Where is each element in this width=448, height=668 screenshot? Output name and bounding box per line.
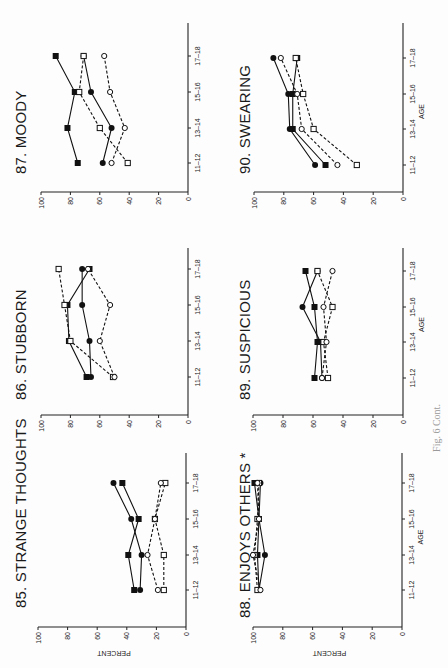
y-tick-label: 100: [35, 632, 42, 644]
open-circle-marker: [97, 338, 102, 343]
filled-circle-marker: [87, 338, 93, 344]
panel-title: 86. STUBBORN: [12, 289, 29, 400]
x-tick-label: 15–16: [409, 297, 416, 317]
open-circle-marker: [324, 339, 329, 344]
x-tick-label: 13–14: [408, 545, 415, 565]
panel-title: 88. ENJOYS OTHERS *: [236, 452, 253, 618]
filled-circle-marker: [287, 126, 293, 132]
series-line: [303, 271, 323, 378]
y-tick-label: 40: [340, 420, 347, 428]
open-circle-marker: [321, 304, 326, 309]
open-square-marker: [56, 266, 61, 271]
open-circle-marker: [330, 268, 335, 273]
y-tick-label: 20: [155, 197, 162, 205]
filled-square-marker: [75, 160, 81, 166]
series-line: [88, 269, 114, 377]
filled-square-marker: [125, 552, 131, 558]
x-axis-label: AGE: [418, 104, 425, 119]
open-square-marker: [125, 160, 130, 165]
series-line: [148, 483, 161, 590]
filled-circle-marker: [110, 480, 116, 486]
open-circle-marker: [299, 126, 304, 131]
filled-square-marker: [312, 375, 318, 381]
open-circle-marker: [122, 125, 127, 130]
filled-circle-marker: [262, 552, 268, 558]
y-tick-label: 20: [369, 632, 376, 640]
chart-panel-89: 89. SUSPICIOUS02040608010011–1213–1415–1…: [236, 248, 425, 432]
open-circle-marker: [109, 160, 114, 165]
open-circle-marker: [295, 91, 300, 96]
x-axis-label: AGE: [418, 317, 425, 332]
x-tick-label: 11–12: [409, 368, 416, 387]
filled-square-marker: [323, 162, 329, 168]
open-circle-marker: [102, 53, 107, 58]
filled-square-marker: [131, 587, 137, 593]
filled-circle-marker: [270, 55, 276, 61]
open-square-marker: [81, 53, 86, 58]
y-tick-label: 80: [67, 420, 74, 428]
y-tick-label: 80: [67, 197, 74, 205]
series-line: [82, 269, 91, 377]
y-tick-label: 60: [94, 632, 101, 640]
chart-panel-90: 90. SWEARING02040608010011–1213–1415–161…: [236, 23, 425, 209]
x-tick-label: 15–16: [409, 84, 416, 104]
y-axis-label: PERCENT: [97, 650, 131, 657]
filled-circle-marker: [79, 302, 85, 308]
y-tick-label: 100: [38, 197, 45, 209]
open-square-marker: [301, 91, 306, 96]
open-circle-marker: [258, 587, 263, 592]
x-tick-label: 17–18: [409, 261, 416, 281]
x-tick-label: 15–16: [194, 295, 201, 315]
open-square-marker: [311, 126, 316, 131]
x-tick-label: 13–14: [194, 331, 201, 351]
y-tick-label: 40: [339, 632, 346, 640]
series-line: [56, 56, 78, 163]
filled-circle-marker: [285, 91, 291, 97]
x-tick-label: 15–16: [408, 509, 415, 529]
x-tick-label: 11–12: [194, 153, 201, 172]
filled-circle-marker: [88, 89, 94, 95]
open-circle-marker: [319, 375, 324, 380]
y-tick-label: 40: [126, 197, 133, 205]
filled-circle-marker: [109, 125, 115, 131]
y-tick-label: 20: [370, 420, 377, 428]
filled-square-marker: [312, 304, 318, 310]
y-tick-label: 80: [279, 632, 286, 640]
open-circle-marker: [85, 266, 90, 271]
y-tick-label: 80: [280, 197, 287, 205]
x-tick-label: 13–14: [192, 545, 199, 565]
y-tick-label: 0: [400, 420, 407, 424]
y-tick-label: 0: [185, 197, 192, 201]
filled-square-marker: [64, 125, 70, 131]
x-tick-label: 13–14: [409, 332, 416, 352]
y-tick-label: 80: [64, 632, 71, 640]
filled-circle-marker: [137, 587, 143, 593]
open-circle-marker: [256, 516, 261, 521]
y-tick-label: 60: [96, 197, 103, 205]
open-circle-marker: [152, 516, 157, 521]
figure-page: 85. STRANGE THOUGHTS02040608010011–1213–…: [0, 0, 448, 668]
open-circle-marker: [158, 480, 163, 485]
x-tick-label: 13–14: [194, 118, 201, 138]
chart-panel-87: 87. MOODY02040608010011–1213–1415–1617–1…: [12, 23, 201, 209]
y-tick-label: 20: [370, 197, 377, 205]
y-tick-label: 60: [310, 420, 317, 428]
open-circle-marker: [112, 374, 117, 379]
filled-square-marker: [53, 53, 59, 59]
open-circle-marker: [278, 55, 283, 60]
open-square-marker: [354, 162, 359, 167]
y-tick-label: 60: [96, 420, 103, 428]
y-tick-label: 60: [309, 632, 316, 640]
open-circle-marker: [155, 587, 160, 592]
open-circle-marker: [145, 552, 150, 557]
filled-circle-marker: [88, 374, 94, 380]
chart-panel-88: 88. ENJOYS OTHERS *02040608010011–1213–1…: [236, 452, 424, 657]
filled-circle-marker: [300, 304, 306, 310]
filled-circle-marker: [139, 552, 145, 558]
open-square-marker: [315, 268, 320, 273]
open-square-marker: [293, 55, 298, 60]
open-square-marker: [62, 302, 67, 307]
x-tick-label: 17–18: [194, 46, 201, 66]
open-square-marker: [161, 552, 166, 557]
x-tick-label: 17–18: [409, 48, 416, 68]
